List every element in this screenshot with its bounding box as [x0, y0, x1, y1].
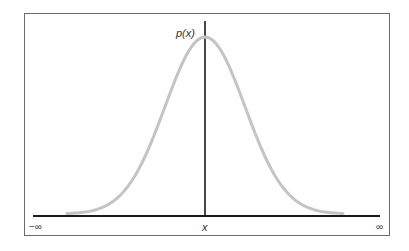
y-axis-label: p(x) — [176, 28, 195, 39]
negative-infinity-label: −∞ — [29, 222, 42, 232]
x-axis-label: x — [202, 222, 208, 233]
bell-curve-plot — [0, 0, 409, 251]
positive-infinity-label: ∞ — [376, 222, 383, 232]
